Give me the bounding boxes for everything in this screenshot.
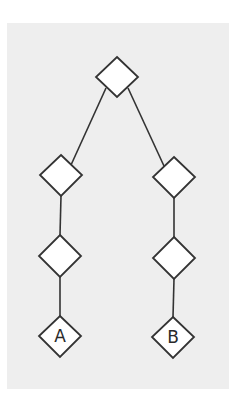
node-right-2 [153, 237, 195, 279]
edge-left-1-2 [60, 196, 61, 235]
tree-diagram: A B [0, 0, 236, 397]
node-root [96, 57, 138, 97]
edge-right-2-b [173, 279, 174, 317]
node-left-1 [40, 155, 82, 196]
leaf-a-label: A [54, 326, 66, 346]
edge-root-left [71, 88, 106, 165]
leaf-b-label: B [167, 327, 179, 347]
node-left-2 [39, 235, 81, 277]
node-right-1 [153, 157, 195, 198]
edge-root-right [128, 88, 164, 166]
